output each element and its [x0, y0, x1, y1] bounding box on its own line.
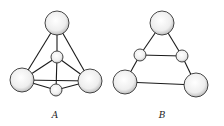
atom-large-top: [150, 11, 174, 35]
atom-large-left: [10, 68, 34, 92]
atom-large-right: [184, 73, 208, 97]
atom-small-bottom: [50, 84, 62, 96]
figure-a: [10, 11, 102, 96]
atom-small-midright: [176, 50, 188, 62]
molecule-diagram: A B: [0, 0, 224, 126]
atom-large-right: [78, 69, 102, 93]
atom-large-left: [113, 70, 137, 94]
atom-large-top: [45, 11, 69, 35]
atom-small-midleft: [134, 49, 146, 61]
figure-b-label: B: [158, 110, 166, 120]
figure-b: [113, 11, 208, 97]
figure-a-label: A: [51, 110, 59, 120]
atom-small-mid: [51, 51, 63, 63]
